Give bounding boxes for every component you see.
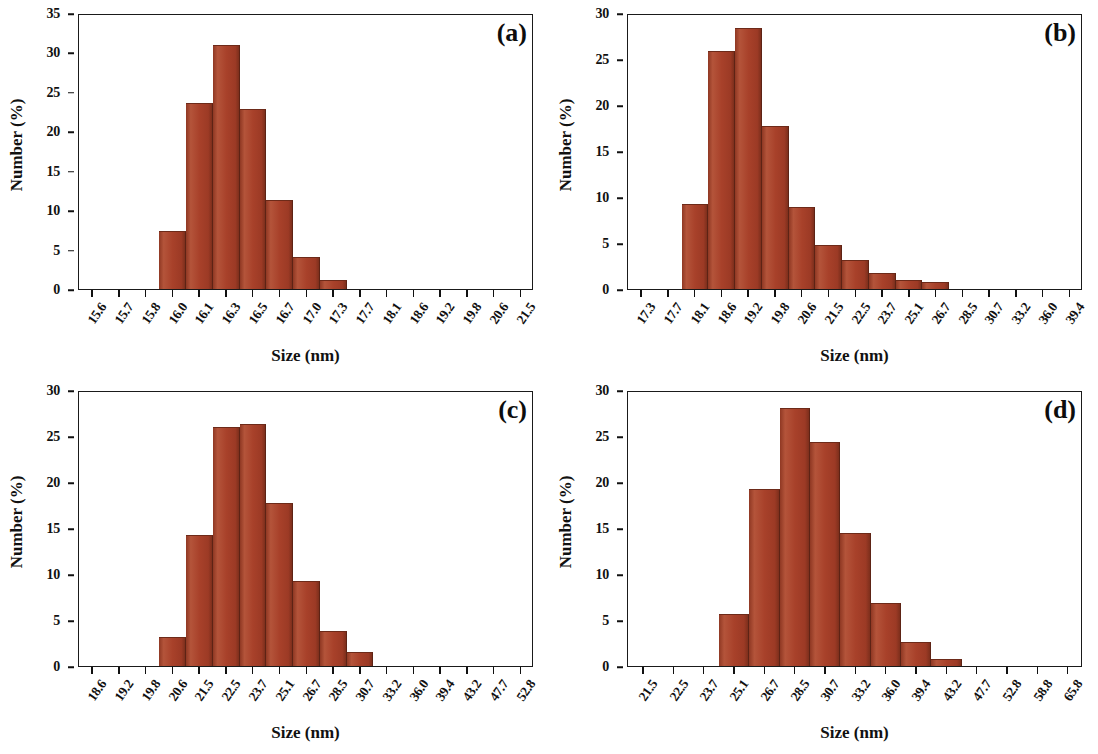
x-tick-label: 26.7 [928,300,954,327]
histogram-bar [719,614,749,666]
x-tick-label: 16.0 [165,300,191,327]
x-axis-ticks: 15.615.715.816.016.116.316.516.717.017.3… [78,290,533,380]
x-tick-label: 18.1 [687,300,713,327]
histogram-bar [931,659,961,666]
x-tick-label: 36.0 [1035,300,1061,327]
y-tick-mark [617,105,623,107]
x-tick-mark [1037,667,1039,674]
figure-panel-grid: Number (%)05101520253035(a)15.615.715.81… [0,0,1098,754]
y-tick-label: 30 [47,45,60,61]
x-tick-label: 36.0 [406,677,432,704]
x-tick-mark [118,290,120,297]
y-tick-mark [68,482,74,484]
x-tick-mark [640,290,642,297]
y-tick-mark [617,620,623,622]
y-tick-label: 5 [602,613,609,629]
x-tick-mark [413,667,415,674]
x-tick-label: 30.7 [982,300,1008,327]
x-tick-mark [359,290,361,297]
x-tick-mark [252,290,254,297]
x-tick-mark [1069,290,1071,297]
x-tick-mark [935,290,937,297]
y-tick-label: 15 [596,521,609,537]
x-tick-mark [439,290,441,297]
x-tick-mark [198,290,200,297]
y-tick-mark [68,390,74,392]
x-tick-mark [91,667,93,674]
x-tick-mark [801,290,803,297]
x-tick-mark [1042,290,1044,297]
y-tick-label: 0 [53,659,60,675]
x-tick-label: 33.2 [379,677,405,704]
panel-letter-d: (d) [1044,395,1076,425]
y-tick-mark [617,528,623,530]
x-tick-mark [962,290,964,297]
histogram-bar [789,207,816,289]
x-tick-label: 18.1 [379,300,405,327]
y-tick-label: 30 [596,383,609,399]
x-tick-label: 25.1 [727,677,753,704]
histogram-bar [266,200,293,289]
histogram-bar [159,637,186,666]
x-tick-label: 17.7 [352,300,378,327]
x-tick-mark [332,290,334,297]
x-tick-mark [764,667,766,674]
histogram-bar [186,103,213,289]
histogram-bar [922,282,949,289]
x-tick-mark [145,290,147,297]
histogram-bar [320,631,347,666]
x-tick-mark [703,667,705,674]
y-tick-label: 5 [53,243,60,259]
x-tick-mark [332,667,334,674]
histogram-bar [293,581,320,666]
y-tick-label: 30 [47,383,60,399]
x-tick-mark [466,667,468,674]
x-tick-label: 25.1 [901,300,927,327]
x-tick-label: 21.5 [636,677,662,704]
y-tick-mark [617,482,623,484]
x-tick-label: 39.4 [433,677,459,704]
x-tick-mark [91,290,93,297]
x-tick-mark [988,290,990,297]
y-tick-label: 20 [596,475,609,491]
x-tick-label: 26.7 [757,677,783,704]
y-tick-label: 25 [47,85,60,101]
x-tick-mark [198,667,200,674]
y-tick-label: 15 [47,521,60,537]
y-tick-mark [68,13,74,15]
x-tick-label: 18.6 [85,677,111,704]
x-tick-mark [172,667,174,674]
bar-series [628,392,1081,666]
x-tick-mark [493,667,495,674]
y-tick-label: 0 [602,282,609,298]
histogram-bar [213,45,240,289]
x-tick-label: 19.2 [741,300,767,327]
x-tick-label: 20.6 [794,300,820,327]
x-tick-mark [279,667,281,674]
x-tick-label: 36.0 [878,677,904,704]
x-tick-label: 52.8 [513,677,539,704]
x-tick-mark [386,667,388,674]
x-axis-title: Size (nm) [78,346,533,366]
y-tick-mark [617,197,623,199]
y-tick-label: 30 [596,6,609,22]
x-tick-label: 28.5 [787,677,813,704]
x-tick-mark [520,667,522,674]
y-tick-label: 20 [47,475,60,491]
histogram-bar [735,28,762,289]
y-tick-mark [68,620,74,622]
y-tick-label: 25 [596,52,609,68]
y-tick-mark [68,289,74,291]
plot-area [78,391,533,667]
x-tick-label: 15.8 [138,300,164,327]
x-tick-label: 23.7 [245,677,271,704]
y-tick-mark [617,243,623,245]
x-tick-mark [915,667,917,674]
x-tick-label: 21.5 [821,300,847,327]
x-tick-mark [721,290,723,297]
x-tick-label: 28.5 [326,677,352,704]
y-tick-mark [68,132,74,134]
panel-letter-c: (c) [498,395,527,425]
y-tick-label: 10 [596,567,609,583]
y-tick-mark [68,171,74,173]
